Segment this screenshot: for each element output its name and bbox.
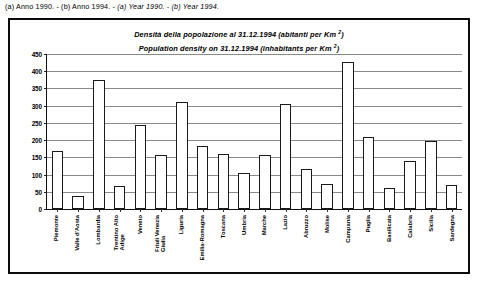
- bar-slot: [296, 54, 317, 209]
- y-tick-label: 300: [32, 102, 42, 109]
- bar-slot: [358, 54, 379, 209]
- x-label-slot: Basilicata: [379, 213, 400, 263]
- y-tick-label: 250: [32, 119, 42, 126]
- chart-figure-frame: Densità della popolazione al 31.12.1994 …: [8, 18, 470, 274]
- x-axis-category-label: Lombardia: [95, 215, 101, 245]
- bar-slot: [68, 54, 89, 209]
- x-axis-category-label: Sicilia: [428, 215, 434, 232]
- x-tick-mark: [389, 209, 390, 212]
- y-tick-label: 200: [32, 137, 42, 144]
- x-label-slot: Piemonte: [46, 213, 67, 263]
- bar-slot: [400, 54, 421, 209]
- bar-slot: [172, 54, 193, 209]
- y-tick-label: 50: [35, 188, 42, 195]
- x-axis-labels: PiemonteValle d'AostaLombardiaTrentino A…: [46, 213, 462, 263]
- caption-italic: (a) Year 1990. - (b) Year 1994.: [117, 2, 219, 11]
- x-tick-mark: [265, 209, 266, 212]
- x-tick-mark: [410, 209, 411, 212]
- x-axis-category-label: Abruzzo: [303, 215, 309, 238]
- bar[interactable]: [238, 173, 250, 210]
- y-tick-label: 100: [32, 171, 42, 178]
- x-axis-category-label: Umbria: [241, 215, 247, 235]
- y-tick-label: 150: [32, 154, 42, 161]
- bar[interactable]: [259, 155, 271, 209]
- bar[interactable]: [342, 62, 354, 209]
- x-tick-mark: [369, 209, 370, 212]
- x-axis-category-label: Trentino Alto Adige: [112, 215, 125, 250]
- x-axis-category-label: Emilia-Romagna: [199, 215, 205, 260]
- bar[interactable]: [384, 188, 396, 209]
- plot-area: [46, 54, 462, 210]
- x-axis-category-label: Basilicata: [386, 215, 392, 242]
- bar[interactable]: [280, 104, 292, 209]
- x-label-slot: Sardegna: [441, 213, 462, 263]
- x-axis-category-label: Veneto: [137, 215, 143, 234]
- x-axis-category-label: Marche: [261, 215, 267, 235]
- bar-slot: [338, 54, 359, 209]
- bar-slot: [130, 54, 151, 209]
- x-label-slot: Calabria: [400, 213, 421, 263]
- x-label-slot: Liguria: [171, 213, 192, 263]
- bar[interactable]: [114, 186, 126, 209]
- x-tick-mark: [161, 209, 162, 212]
- bar-slot: [317, 54, 338, 209]
- bar[interactable]: [93, 80, 105, 209]
- x-axis-category-label: Liguria: [178, 215, 184, 234]
- bar[interactable]: [363, 137, 375, 209]
- y-axis: 450400350300250200150100500: [22, 51, 44, 263]
- x-label-slot: Marche: [254, 213, 275, 263]
- x-tick-mark: [120, 209, 121, 212]
- bar[interactable]: [197, 146, 209, 209]
- x-tick-mark: [348, 209, 349, 212]
- x-label-slot: Emilia-Romagna: [192, 213, 213, 263]
- bar-slot: [213, 54, 234, 209]
- bar[interactable]: [72, 196, 84, 209]
- x-label-slot: Molise: [316, 213, 337, 263]
- x-axis-category-label: Sardegna: [449, 215, 455, 241]
- y-tick-label: 400: [32, 68, 42, 75]
- x-label-slot: Umbria: [233, 213, 254, 263]
- bar[interactable]: [155, 155, 167, 209]
- bar[interactable]: [446, 185, 458, 209]
- x-axis-category-label: Campania: [345, 215, 351, 243]
- bar[interactable]: [301, 169, 313, 209]
- bar[interactable]: [52, 151, 64, 209]
- plot-area-wrapper: 450400350300250200150100500 PiemonteVall…: [22, 51, 462, 263]
- x-label-slot: Lazio: [275, 213, 296, 263]
- x-label-slot: Puglia: [358, 213, 379, 263]
- x-tick-mark: [244, 209, 245, 212]
- x-tick-mark: [203, 209, 204, 212]
- x-label-slot: Trentino Alto Adige: [108, 213, 129, 263]
- bar[interactable]: [218, 154, 230, 209]
- bar-slot: [47, 54, 68, 209]
- bar-slot: [275, 54, 296, 209]
- x-label-slot: Campania: [337, 213, 358, 263]
- x-axis-category-label: Lazio: [282, 215, 288, 230]
- x-label-slot: Abruzzo: [296, 213, 317, 263]
- bar-slot: [89, 54, 110, 209]
- bar[interactable]: [176, 102, 188, 209]
- x-axis-category-label: Puglia: [365, 215, 371, 232]
- bar[interactable]: [135, 125, 147, 209]
- x-axis-category-label: Piemonte: [53, 215, 59, 241]
- caption-roman: (a) Anno 1990. - (b) Anno 1994. -: [5, 2, 117, 11]
- bar-slot: [379, 54, 400, 209]
- x-label-slot: Sicilia: [420, 213, 441, 263]
- x-tick-mark: [431, 209, 432, 212]
- y-tick-label: 450: [32, 51, 42, 58]
- x-label-slot: Toscana: [212, 213, 233, 263]
- x-axis-category-label: Molise: [324, 215, 330, 233]
- x-tick-mark: [327, 209, 328, 212]
- x-label-slot: Lombardia: [88, 213, 109, 263]
- bar-slot: [151, 54, 172, 209]
- x-label-slot: Valle d'Aosta: [67, 213, 88, 263]
- chart-title-italian-text: Densità della popolazione al 31.12.1994 …: [134, 30, 344, 39]
- bar[interactable]: [425, 141, 437, 209]
- y-tick-label: 0: [39, 206, 42, 213]
- bar-slot: [441, 54, 462, 209]
- x-label-slot: Friuli Venezia Giulia: [150, 213, 171, 263]
- x-tick-mark: [99, 209, 100, 212]
- x-axis-category-label: Valle d'Aosta: [74, 215, 80, 251]
- bar[interactable]: [404, 161, 416, 209]
- bar[interactable]: [321, 184, 333, 209]
